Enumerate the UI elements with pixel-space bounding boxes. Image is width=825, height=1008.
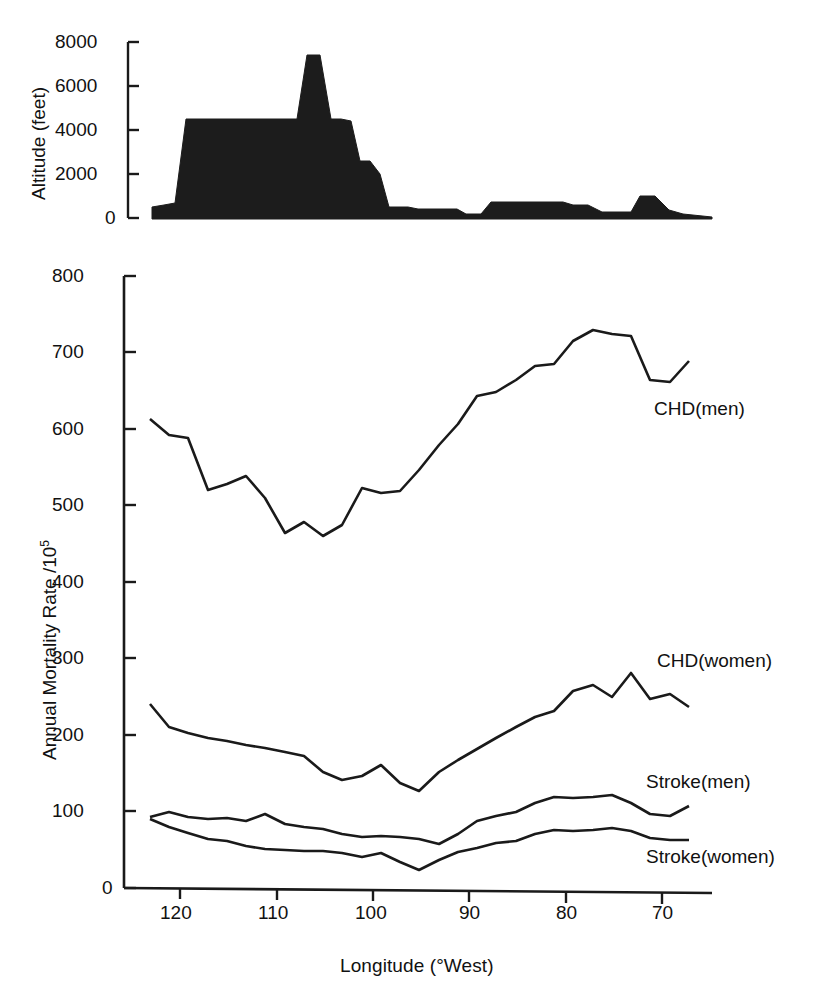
- mortality-plot: [0, 0, 825, 1008]
- series-line-chd-women: [150, 673, 689, 791]
- series-line-chd-men: [150, 330, 689, 536]
- figure-canvas: Altitude (feet) 8000 6000 4000 2000 0 An…: [0, 0, 825, 1008]
- series-line-stroke-women: [150, 819, 689, 870]
- mortality-x-axis-spine: [124, 888, 712, 893]
- mortality-y-ticks: [124, 276, 136, 888]
- series-line-stroke-men: [150, 795, 689, 844]
